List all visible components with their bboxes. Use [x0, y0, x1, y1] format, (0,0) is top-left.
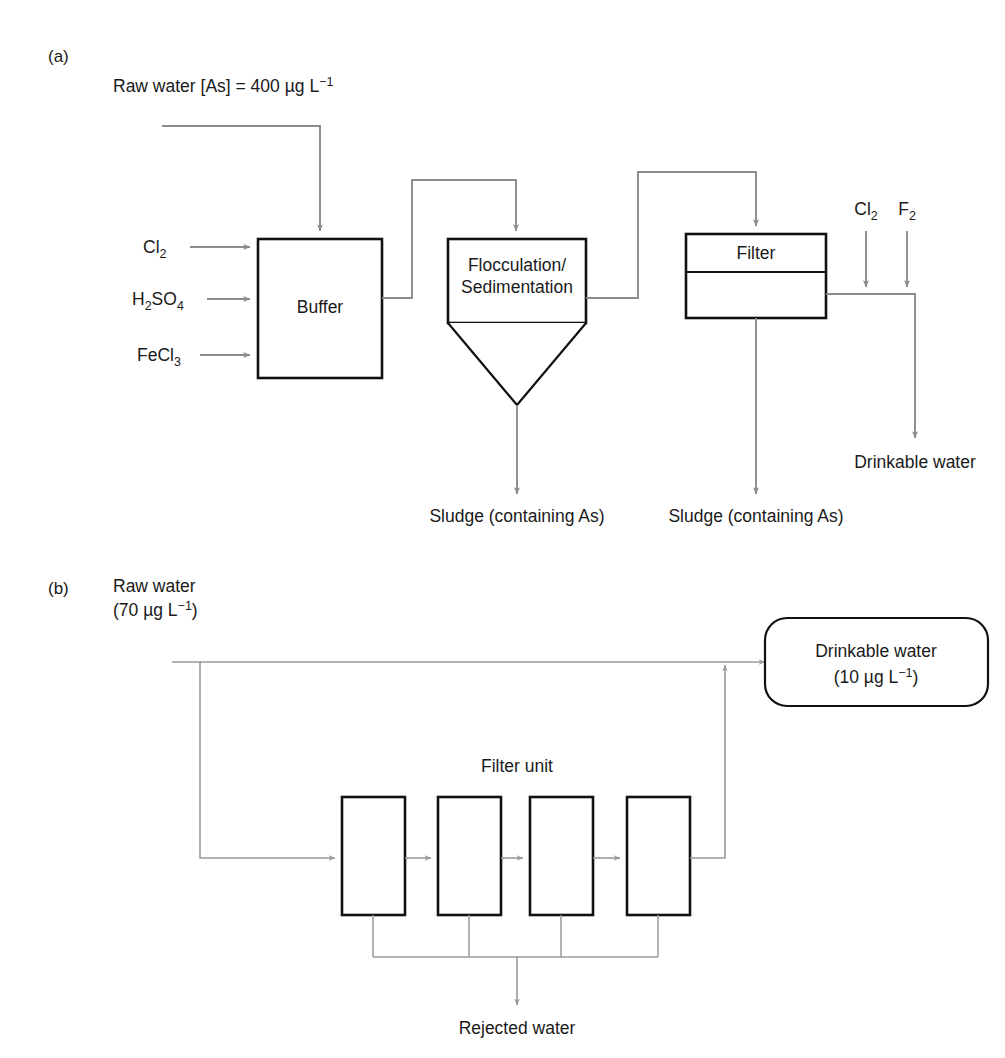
panel-b-inlet-mu: µ [143, 600, 153, 620]
drinkable-water-output-label: Drinkable water [854, 452, 976, 472]
panel-a-inlet-mu: µ [285, 76, 295, 96]
panel-a-label: (a) [48, 47, 69, 66]
process-flow-diagram: (a) Raw water [As] = 400 µg L−1 Cl2 H2SO… [0, 0, 1005, 1058]
filter-unit-label: Filter unit [481, 756, 553, 776]
panel-b-inlet-open: (70 [113, 600, 143, 620]
filter-stage-2 [438, 797, 501, 915]
filter-label: Filter [737, 243, 776, 263]
panel-b-inlet-exponent: −1 [178, 599, 192, 613]
h2so4-h: H [132, 289, 145, 309]
drinkable-water-open: (10 [834, 667, 864, 687]
h2so4-sub2: 4 [177, 299, 184, 313]
panel-b-inlet-close: ) [192, 600, 198, 620]
unit-filter: Filter [686, 234, 826, 318]
drinkable-water-exponent: −1 [898, 666, 912, 680]
panel-b-inlet-line1: Raw water [113, 576, 196, 596]
panel-b-inlet-units: g L [153, 600, 178, 620]
flocculation-label-line2: Sedimentation [461, 277, 573, 297]
filter-stage-1 [342, 797, 405, 915]
page-background [0, 0, 1005, 1058]
panel-a-inlet-text: Raw water [As] = 400 [113, 76, 285, 96]
fecl3-base: FeCl [137, 345, 174, 365]
flocculation-label-line1: Flocculation/ [468, 255, 566, 275]
dosing-f2-base: F [898, 199, 909, 219]
cl2-sub: 2 [160, 247, 167, 261]
filter-stage-3 [530, 797, 593, 915]
drinkable-water-close: ) [913, 667, 919, 687]
sludge-sedimentation-label: Sludge (containing As) [429, 506, 604, 526]
cl2-base: Cl [143, 237, 160, 257]
sludge-filter-label: Sludge (containing As) [668, 506, 843, 526]
panel-a-inlet-exponent: −1 [319, 75, 333, 89]
panel-b-label: (b) [48, 579, 69, 598]
dosing-cl2-base: Cl [854, 199, 871, 219]
panel-a-inlet-units: g L [295, 76, 320, 96]
dosing-cl2-sub: 2 [871, 209, 878, 223]
drinkable-water-mu: µ [864, 667, 874, 687]
drinkable-water-box [765, 618, 988, 706]
product-drinkable-water: Drinkable water (10 µg L−1) [765, 618, 988, 706]
h2so4-sub1: 2 [145, 299, 152, 313]
drinkable-water-line1: Drinkable water [815, 641, 937, 661]
h2so4-so: SO [152, 289, 177, 309]
dosing-f2-sub: 2 [909, 209, 916, 223]
panel-a-inlet-label: Raw water [As] = 400 µg L−1 [113, 75, 333, 96]
drinkable-water-units: g L [874, 667, 899, 687]
fecl3-sub: 3 [174, 355, 181, 369]
svg-text:Raw water [As] = 400 µg L−1: Raw water [As] = 400 µg L−1 [113, 75, 333, 96]
rejected-water-label: Rejected water [459, 1018, 576, 1038]
buffer-label: Buffer [297, 297, 344, 317]
filter-stage-4 [627, 797, 690, 915]
unit-buffer: Buffer [258, 239, 382, 378]
